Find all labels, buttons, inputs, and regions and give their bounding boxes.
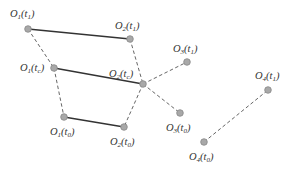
dashed-edge-O4_t0-O4_t1 — [204, 90, 268, 142]
node-O1_t1 — [25, 26, 32, 33]
node-label-O2_t1: O2(t1) — [115, 20, 140, 33]
label-part-close: ) — [209, 151, 214, 163]
label-part-close: ) — [40, 62, 45, 74]
node-label-O1_t1: O1(t1) — [10, 8, 35, 21]
node-O2_tc — [140, 81, 147, 88]
node-O4_t0 — [201, 139, 208, 146]
node-O2_t1 — [127, 36, 134, 43]
node-O1_t0 — [61, 114, 68, 121]
node-label-O4_t1: O4(t1) — [255, 70, 280, 83]
label-part-close: ) — [30, 8, 35, 20]
dashed-edge-O2_tc-O3_t0 — [143, 84, 180, 113]
label-part-close: ) — [135, 20, 140, 32]
dashed-edge-O1_tc-O1_t0 — [54, 68, 64, 117]
node-O3_t1 — [184, 59, 191, 66]
node-label-O3_t0: O3(t0) — [166, 122, 191, 135]
label-part-close: ) — [275, 70, 280, 82]
dashed-edge-O2_tc-O3_t1 — [143, 62, 187, 84]
node-O2_t0 — [121, 124, 128, 131]
label-part-close: ) — [186, 122, 191, 134]
trajectory-diagram: O1(t1)O2(t1)O1(tc)O2(tc)O1(t0)O2(t0)O3(t… — [0, 0, 293, 172]
node-O4_t1 — [265, 87, 272, 94]
node-label-O4_t0: O4(t0) — [189, 151, 214, 164]
node-label-O2_t0: O2(t0) — [110, 136, 135, 149]
label-part-close: ) — [129, 68, 134, 80]
node-label-O1_t0: O1(t0) — [50, 126, 75, 139]
node-O3_t0 — [177, 110, 184, 117]
node-O1_tc — [51, 65, 58, 72]
label-part-close: ) — [193, 43, 198, 55]
dashed-edge-O2_tc-O2_t0 — [124, 84, 143, 127]
label-part-close: ) — [130, 136, 135, 148]
node-label-O1_tc: O1(tc) — [20, 62, 45, 75]
label-part-close: ) — [70, 126, 75, 138]
node-label-O3_t1: O3(t1) — [173, 43, 198, 56]
